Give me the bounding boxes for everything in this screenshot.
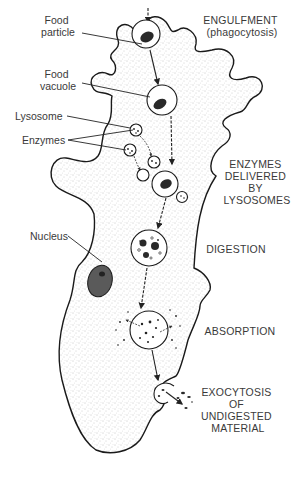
digestion-vacuole xyxy=(131,230,167,266)
label-food-particle: Food particle xyxy=(41,14,75,38)
stage-exocytosis: EXOCYTOSIS OF UNDIGESTED MATERIAL xyxy=(201,386,275,434)
label-enzymes: Enzymes xyxy=(22,134,65,146)
stage-digestion: DIGESTION xyxy=(206,243,266,255)
amoeba-phagocytosis-diagram: Food particle Food vacuole Lysosome Enzy… xyxy=(0,0,298,478)
label-food-vacuole: Food vacuole xyxy=(40,68,76,92)
exocytosis-vesicle xyxy=(154,383,174,403)
label-lysosome: Lysosome xyxy=(15,110,63,122)
absorption-vacuole xyxy=(130,311,168,349)
stage-engulfment: ENGULFMENT (phagocytosis) xyxy=(203,14,280,38)
stage-absorption: ABSORPTION xyxy=(205,325,276,337)
lysosome-4 xyxy=(177,192,188,203)
lysosome-3 xyxy=(148,156,160,168)
fusing-lysosome xyxy=(137,169,149,181)
label-nucleus: Nucleus xyxy=(30,230,68,242)
stage-enzymes-delivered: ENZYMES DELIVERED BY LYSOSOMES xyxy=(224,158,291,206)
